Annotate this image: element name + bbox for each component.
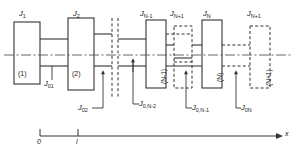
axis-tick-label-l: l — [76, 138, 78, 145]
shaft-segment-2-3 — [94, 34, 112, 66]
figure-canvas: J1 J2 JN-1 JN+1 JN JN+1 (1) (2) (N-1) (N… — [0, 0, 296, 155]
label-station-n-minus-1: (N-1) — [160, 69, 167, 84]
shaft-segment-1-2 — [40, 39, 68, 66]
label-station-1: (1) — [18, 70, 27, 77]
label-inertia-jn-plus-1-b: JN+1 — [247, 10, 261, 18]
label-inertia-j2: J2 — [73, 10, 80, 18]
shaft-segment-left-of-n-minus-1 — [118, 39, 146, 66]
inertia-block-2 — [68, 18, 94, 90]
axis-tick-label-0: 0 — [37, 138, 41, 145]
diagram-svg — [0, 0, 296, 155]
label-stiffness-j02: J02 — [78, 104, 88, 112]
shaft-segment-virtual-b — [222, 45, 250, 66]
label-inertia-jn: JN — [203, 10, 211, 18]
label-station-n: (N) — [216, 73, 223, 82]
label-station-2: (2) — [72, 70, 81, 77]
label-stiffness-j01: J01 — [44, 80, 54, 88]
label-inertia-jn-plus-1-a: JN+1 — [170, 10, 184, 18]
x-axis-arrowhead — [276, 133, 283, 139]
label-stiffness-j0n-minus-2: J0,N-2 — [139, 100, 156, 108]
label-inertia-j1: J1 — [19, 10, 26, 18]
label-station-n-plus-1: (N+1) — [265, 69, 272, 86]
label-stiffness-j0n: J0N — [241, 104, 252, 112]
callout-j0n-minus-2 — [133, 60, 139, 104]
section-break-dashed — [112, 18, 118, 98]
shaft-segment-n-minus-1-to-n — [166, 45, 202, 66]
inertia-block-n-plus-1-virtual-a — [174, 26, 192, 88]
label-stiffness-j0n-minus-1: J0,N-1 — [192, 104, 209, 112]
label-inertia-jn-minus-1: JN-1 — [140, 10, 152, 18]
axis-name-x: x — [285, 130, 289, 137]
